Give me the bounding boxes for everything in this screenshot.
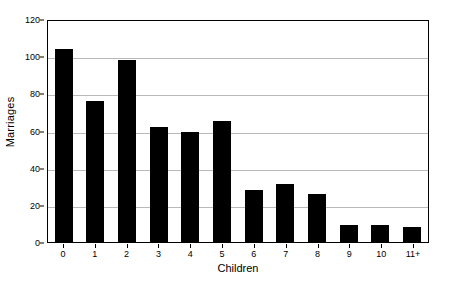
bar: [340, 225, 358, 242]
y-axis-tick-mark: [40, 243, 44, 244]
x-axis-tick-mark: [413, 244, 414, 248]
x-axis-tick-mark: [190, 244, 191, 248]
x-axis-tick-mark: [95, 244, 96, 248]
bar: [55, 49, 73, 242]
x-axis-tick-label: 0: [54, 244, 72, 259]
x-axis-tick-mark: [63, 244, 64, 248]
x-axis-tick-label: 7: [277, 244, 295, 259]
x-axis-title: Children: [47, 262, 429, 274]
bar-series: [48, 21, 428, 242]
x-axis-tick-label: 6: [245, 244, 263, 259]
bar: [181, 132, 199, 242]
y-axis-tick-mark: [40, 94, 44, 95]
bar: [403, 227, 421, 242]
bar: [245, 190, 263, 242]
x-axis-tick-label: 1: [86, 244, 104, 259]
y-axis-tick-mark: [40, 205, 44, 206]
y-axis-tick-label: 20: [30, 201, 40, 211]
y-axis-tick-label: 60: [30, 127, 40, 137]
y-axis-tick-label: 100: [25, 52, 40, 62]
x-axis-tick-label: 5: [213, 244, 231, 259]
bar: [86, 101, 104, 242]
y-axis-tick-labels: 020406080100120: [18, 20, 44, 243]
y-axis-tick-label: 120: [25, 15, 40, 25]
x-axis-tick-mark: [254, 244, 255, 248]
x-axis-tick-mark: [381, 244, 382, 248]
bar: [150, 127, 168, 242]
x-axis-tick-labels: 01234567891011+: [47, 244, 429, 260]
y-axis-tick-mark: [40, 57, 44, 58]
y-axis-title: Marriages: [0, 0, 20, 243]
x-axis-tick-mark: [286, 244, 287, 248]
y-axis-tick-mark: [40, 20, 44, 21]
x-axis-tick-label: 10: [372, 244, 390, 259]
x-axis-tick-mark: [222, 244, 223, 248]
x-axis-tick-mark: [318, 244, 319, 248]
x-axis-tick-label: 8: [309, 244, 327, 259]
y-axis-tick-mark: [40, 131, 44, 132]
bar: [371, 225, 389, 242]
x-axis-tick-label: 11+: [404, 244, 422, 259]
bar: [118, 60, 136, 242]
bar: [213, 121, 231, 242]
y-axis-tick-mark: [40, 168, 44, 169]
x-axis-tick-mark: [158, 244, 159, 248]
x-axis-tick-mark: [349, 244, 350, 248]
y-axis-tick-label: 40: [30, 164, 40, 174]
bar: [308, 194, 326, 242]
bar-chart: Marriages 020406080100120 01234567891011…: [0, 0, 467, 289]
x-axis-tick-label: 3: [149, 244, 167, 259]
x-axis-tick-label: 2: [118, 244, 136, 259]
bar: [276, 184, 294, 242]
plot-area: [47, 20, 429, 243]
x-axis-tick-label: 9: [340, 244, 358, 259]
x-axis-tick-label: 4: [181, 244, 199, 259]
y-axis-tick-label: 80: [30, 89, 40, 99]
y-axis-title-text: Marriages: [4, 96, 16, 147]
x-axis-tick-mark: [127, 244, 128, 248]
